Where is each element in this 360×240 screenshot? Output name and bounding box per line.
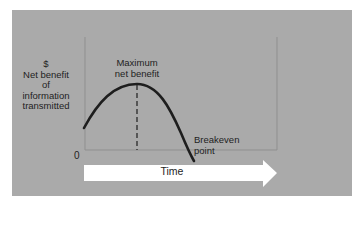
max-benefit-annotation: Maximum net benefit: [102, 58, 172, 79]
annotation-line: Breakeven: [194, 135, 239, 146]
y-axis-label-line: transmitted: [6, 101, 86, 112]
annotation-line: net benefit: [102, 69, 172, 80]
net-benefit-curve: [84, 84, 194, 161]
x-axis-label: Time: [150, 166, 194, 177]
y-axis-label: $ Net benefit of information transmitted: [6, 59, 86, 112]
breakeven-annotation: Breakeven point: [194, 135, 239, 156]
y-axis-label-line: $: [6, 59, 86, 70]
origin-label: 0: [74, 151, 80, 162]
y-axis-label-line: of: [6, 80, 86, 91]
annotation-line: point: [194, 146, 239, 157]
annotation-line: Maximum: [102, 58, 172, 69]
